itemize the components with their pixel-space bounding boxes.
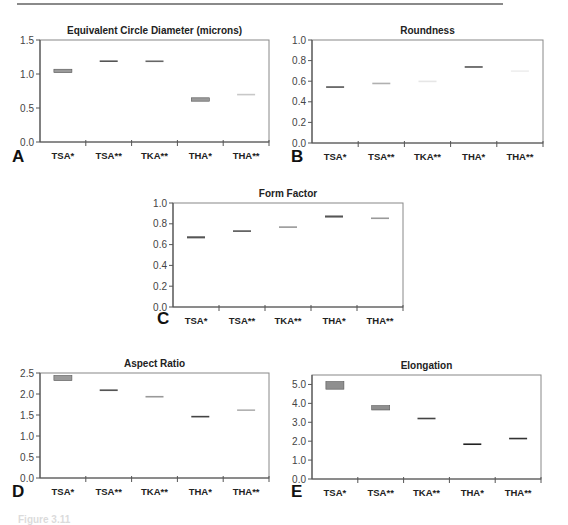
- panel-letter: C: [157, 309, 169, 328]
- x-category-label: THA**: [506, 151, 533, 162]
- top-rule-divider: [17, 3, 503, 5]
- plot-area: [312, 40, 543, 143]
- range-bar: [326, 86, 344, 88]
- range-box: [372, 406, 390, 410]
- panel-letter: E: [291, 482, 302, 501]
- x-category-label: TSA**: [367, 487, 394, 498]
- plot-area: [312, 375, 541, 479]
- range-bar: [100, 389, 118, 391]
- range-bar: [100, 60, 118, 62]
- y-tick-label: 0.0: [153, 302, 167, 313]
- panel-letter: B: [291, 147, 303, 166]
- figure-caption: Figure 3.11: [18, 514, 70, 525]
- range-bar: [465, 66, 483, 68]
- chart-title: Roundness: [400, 25, 455, 36]
- plot-area: [173, 203, 403, 307]
- plot-area: [40, 40, 269, 142]
- x-category-label: TSA**: [95, 486, 122, 497]
- x-category-label: TSA*: [52, 486, 75, 497]
- x-category-label: TSA*: [324, 151, 347, 162]
- x-category-label: THA**: [505, 487, 532, 498]
- range-bar: [187, 236, 205, 238]
- y-tick-label: 1.0: [20, 431, 34, 442]
- x-category-label: TSA**: [229, 315, 256, 326]
- y-tick-label: 5.0: [292, 379, 306, 390]
- x-category-label: TSA*: [185, 315, 208, 326]
- x-category-label: TKA**: [413, 487, 440, 498]
- y-tick-label: 1.0: [292, 35, 306, 46]
- y-tick-label: 0.0: [292, 138, 306, 149]
- range-bar: [279, 226, 297, 228]
- y-tick-label: 0.0: [292, 474, 306, 485]
- x-category-label: TSA*: [324, 487, 347, 498]
- y-tick-label: 1.5: [20, 410, 34, 421]
- range-bar: [237, 94, 255, 96]
- range-bar: [371, 217, 389, 219]
- y-tick-label: 0.5: [20, 103, 34, 114]
- plot-area: [40, 373, 269, 478]
- range-bar: [146, 60, 164, 62]
- y-tick-label: 0.4: [292, 96, 306, 107]
- range-bar: [233, 230, 251, 232]
- y-tick-label: 2.0: [292, 436, 306, 447]
- x-category-label: TSA**: [368, 151, 395, 162]
- y-tick-label: 0.6: [292, 76, 306, 87]
- y-tick-label: 0.0: [20, 137, 34, 148]
- x-category-label: THA*: [189, 150, 213, 161]
- range-box: [326, 382, 344, 390]
- y-tick-label: 1.0: [292, 455, 306, 466]
- y-tick-label: 1.0: [153, 198, 167, 209]
- x-category-label: THA**: [367, 315, 394, 326]
- range-bar: [237, 409, 255, 411]
- x-category-label: THA*: [322, 315, 346, 326]
- panel-letter: A: [12, 147, 24, 166]
- y-tick-label: 0.8: [153, 218, 167, 229]
- range-bar: [509, 438, 527, 440]
- range-bar: [325, 215, 343, 217]
- chart-title: Equivalent Circle Diameter (microns): [67, 25, 242, 36]
- chart-title: Aspect Ratio: [124, 358, 185, 369]
- x-category-label: THA**: [233, 150, 260, 161]
- y-tick-label: 4.0: [292, 398, 306, 409]
- chart-title: Elongation: [401, 360, 453, 371]
- y-tick-label: 0.6: [153, 239, 167, 250]
- y-tick-label: 0.4: [153, 260, 167, 271]
- range-bar: [191, 416, 209, 418]
- x-category-label: TKA**: [414, 151, 441, 162]
- x-category-label: THA*: [189, 486, 213, 497]
- y-tick-label: 0.5: [20, 452, 34, 463]
- x-category-label: TSA*: [52, 150, 75, 161]
- y-tick-label: 3.0: [292, 417, 306, 428]
- range-box: [191, 98, 209, 101]
- panel-letter: D: [12, 482, 24, 501]
- y-tick-label: 0.2: [153, 281, 167, 292]
- x-category-label: TKA**: [141, 486, 168, 497]
- x-category-label: THA*: [461, 487, 485, 498]
- x-category-label: TSA**: [95, 150, 122, 161]
- chart-title: Form Factor: [259, 188, 317, 199]
- y-tick-label: 0.2: [292, 117, 306, 128]
- y-tick-label: 2.5: [20, 368, 34, 379]
- y-tick-label: 1.5: [20, 35, 34, 46]
- x-category-label: TKA**: [275, 315, 302, 326]
- x-category-label: TKA**: [141, 150, 168, 161]
- range-bar: [146, 396, 164, 398]
- range-bar: [418, 418, 436, 420]
- y-tick-label: 0.0: [20, 473, 34, 484]
- x-category-label: THA**: [233, 486, 260, 497]
- y-tick-label: 0.8: [292, 55, 306, 66]
- y-tick-label: 1.0: [20, 69, 34, 80]
- y-tick-label: 2.0: [20, 389, 34, 400]
- x-category-label: THA*: [462, 151, 486, 162]
- range-bar: [372, 83, 390, 85]
- range-bar: [511, 70, 529, 72]
- range-bar: [419, 81, 437, 83]
- range-box: [54, 69, 72, 72]
- range-bar: [463, 443, 481, 445]
- range-box: [54, 376, 72, 381]
